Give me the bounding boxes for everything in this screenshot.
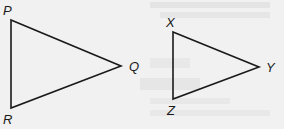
background-bleed-text [140,2,270,116]
vertex-label-x: X [165,15,176,30]
vertex-label-r: R [3,112,12,127]
triangle-pqr: P Q R [3,3,139,127]
vertex-label-p: P [3,3,12,18]
congruence-diagram: P Q R X Y Z [0,0,284,129]
vertex-label-q: Q [129,59,139,74]
vertex-label-y: Y [266,60,276,75]
vertex-label-z: Z [166,103,176,118]
